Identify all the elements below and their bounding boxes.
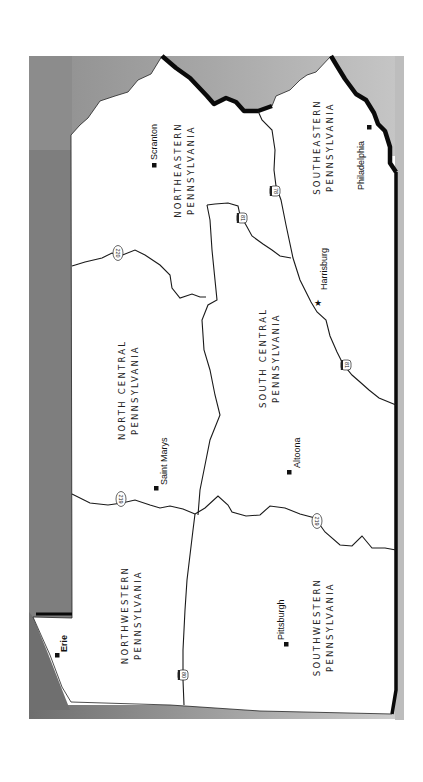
outside-state-left-strip — [29, 56, 72, 156]
city-marker-square — [367, 125, 372, 130]
city-marker-square — [55, 653, 60, 658]
city-marker-square — [287, 470, 292, 475]
svg-text:Pittsburgh: Pittsburgh — [276, 599, 286, 640]
svg-text:NORTH CENTRAL: NORTH CENTRAL — [117, 340, 127, 440]
svg-text:PENNSYLVANIA: PENNSYLVANIA — [271, 313, 281, 403]
svg-text:PENNSYLVANIA: PENNSYLVANIA — [133, 570, 143, 660]
route-shield-78: 78 — [270, 186, 280, 196]
city-scranton: Scranton — [149, 124, 159, 168]
svg-text:220: 220 — [115, 248, 121, 257]
state-shape — [33, 56, 396, 714]
route-shield-81-south: 81 — [341, 360, 351, 370]
svg-text:SOUTHWESTERN: SOUTHWESTERN — [312, 578, 322, 676]
city-marker-square — [284, 642, 289, 647]
capital-star-icon: ★ — [314, 298, 322, 308]
svg-text:PENNSYLVANIA: PENNSYLVANIA — [325, 102, 335, 192]
svg-text:SOUTHEASTERN: SOUTHEASTERN — [312, 99, 322, 195]
route-shield-220: 220 — [113, 246, 123, 261]
svg-text:Erie: Erie — [59, 635, 69, 652]
svg-text:81: 81 — [240, 215, 246, 221]
city-marker-square — [152, 163, 157, 168]
route-shield-80: 80 — [178, 670, 188, 680]
route-shield-219-north: 219 — [116, 492, 126, 507]
route-shield-81-north: 81 — [237, 213, 247, 223]
svg-text:PENNSYLVANIA: PENNSYLVANIA — [186, 125, 196, 215]
city-marker-square — [154, 486, 159, 491]
svg-text:78: 78 — [273, 188, 279, 194]
route-shield-219-south: 219 — [312, 514, 322, 529]
svg-text:Altoona: Altoona — [292, 437, 302, 468]
svg-text:80: 80 — [181, 672, 187, 678]
svg-text:NORTHWESTERN: NORTHWESTERN — [120, 566, 130, 664]
svg-text:81: 81 — [344, 362, 350, 368]
pennsylvania-region-map: 78 81 81 220 219 219 80 NORTHEASTERN PEN… — [0, 0, 423, 782]
svg-text:PENNSYLVANIA: PENNSYLVANIA — [325, 582, 335, 672]
svg-text:NORTHEASTERN: NORTHEASTERN — [173, 122, 183, 218]
svg-text:SOUTH CENTRAL: SOUTH CENTRAL — [258, 308, 268, 408]
svg-text:219: 219 — [118, 494, 124, 503]
svg-text:Scranton: Scranton — [149, 124, 159, 160]
svg-text:Saint Marys: Saint Marys — [159, 437, 169, 485]
svg-text:Harrisburg: Harrisburg — [319, 248, 329, 290]
svg-text:Philadelphia: Philadelphia — [356, 141, 366, 190]
svg-text:219: 219 — [314, 516, 320, 525]
svg-text:PENNSYLVANIA: PENNSYLVANIA — [130, 345, 140, 435]
outside-state-left-band — [29, 150, 72, 620]
